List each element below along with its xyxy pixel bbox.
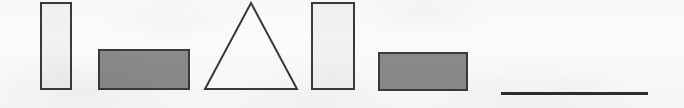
figure-canvas (0, 0, 684, 108)
triangle-polygon (205, 3, 297, 89)
unfilled-triangle (203, 1, 299, 91)
tall-light-rectangle-2 (311, 2, 355, 90)
horizontal-line-segment (501, 92, 648, 95)
tall-light-rectangle-1 (40, 2, 72, 90)
wide-dark-rectangle-1 (98, 49, 190, 90)
wide-dark-rectangle-2 (378, 52, 468, 91)
triangle-svg (203, 1, 299, 91)
